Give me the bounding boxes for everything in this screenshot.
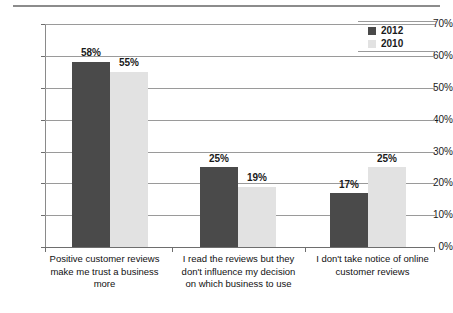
- data-label-2010-positive-reviews: 55%: [110, 57, 148, 68]
- top-divider-rule: [13, 5, 440, 7]
- legend-item-2010[interactable]: 2010: [358, 37, 436, 50]
- data-label-2010-reviews-no-influence: 19%: [238, 172, 276, 183]
- category-label-line: Positive customer reviews: [37, 253, 172, 266]
- category-label-positive-reviews: Positive customer reviews make me trust …: [37, 253, 172, 291]
- x-axis-line: [45, 247, 435, 248]
- category-label-line: I don't take notice of online: [305, 253, 440, 266]
- legend-swatch-icon-2010: [368, 40, 376, 48]
- x-tick-mark: [305, 247, 306, 252]
- category-label-no-notice: I don't take notice of online customer r…: [305, 253, 440, 278]
- x-tick-mark: [172, 247, 173, 252]
- bar-2010-reviews-no-influence[interactable]: [238, 187, 276, 248]
- data-label-2012-no-notice: 17%: [330, 179, 368, 190]
- category-label-line: customer reviews: [305, 266, 440, 279]
- category-label-line: more: [37, 278, 172, 291]
- category-label-line: I read the reviews but they: [172, 253, 305, 266]
- legend-label-2010: 2010: [381, 38, 403, 49]
- data-label-2012-reviews-no-influence: 25%: [200, 153, 238, 164]
- category-label-line: make me trust a business: [37, 266, 172, 279]
- legend-item-2012[interactable]: 2012: [358, 24, 436, 37]
- x-tick-mark: [45, 247, 46, 252]
- bar-2010-positive-reviews[interactable]: [110, 72, 148, 247]
- data-label-2010-no-notice: 25%: [368, 153, 406, 164]
- bar-2010-no-notice[interactable]: [368, 167, 406, 247]
- bar-2012-no-notice[interactable]: [330, 193, 368, 247]
- category-label-line: on which business to use: [172, 278, 305, 291]
- bar-2012-positive-reviews[interactable]: [72, 62, 110, 247]
- category-label-reviews-no-influence: I read the reviews but they don't influe…: [172, 253, 305, 291]
- legend-label-2012: 2012: [381, 25, 403, 36]
- bar-2012-reviews-no-influence[interactable]: [200, 167, 238, 247]
- data-label-2012-positive-reviews: 58%: [72, 47, 110, 58]
- bar-chart: 70% 60% 50% 40% 30% 20% 10% 0%: [0, 0, 453, 313]
- category-label-line: don't influence my decision: [172, 266, 305, 279]
- chart-legend: 2012 2010: [358, 21, 436, 52]
- legend-swatch-icon-2012: [368, 27, 376, 35]
- x-tick-mark: [434, 247, 435, 252]
